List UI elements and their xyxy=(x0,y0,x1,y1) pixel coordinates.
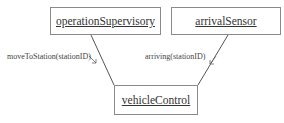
object-arrivalSensor[interactable]: arrivalSensor xyxy=(171,7,281,35)
message-label: moveToStation(stationID) xyxy=(7,52,91,61)
message-arrow-icon xyxy=(210,56,216,64)
object-label: operationSupervisory xyxy=(56,15,155,27)
object-vehicleControl[interactable]: vehicleControl xyxy=(114,85,198,115)
message-label: arriving(stationID) xyxy=(145,52,205,61)
link-operationSupervisory-vehicleControl xyxy=(91,35,114,85)
object-operationSupervisory[interactable]: operationSupervisory xyxy=(50,7,161,35)
object-label: vehicleControl xyxy=(122,94,190,106)
object-label: arrivalSensor xyxy=(195,15,256,27)
